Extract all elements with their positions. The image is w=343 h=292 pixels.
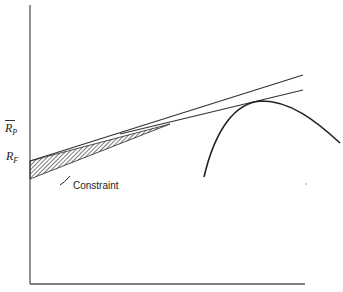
efficient-frontier-curve [204,101,340,177]
intercept-label-sub: F [13,156,18,165]
y-axis-label: RP [5,121,17,137]
intercept-label: RF [6,149,18,165]
y-axis-label-sub: P [12,128,17,137]
hatched-constraint-region [30,124,170,179]
constraint-label: Constraint [73,180,119,191]
upper-capital-market-line [30,75,303,161]
speck [305,183,307,185]
diagram-canvas [0,0,343,292]
lower-tangent-line [120,90,303,134]
constraint-pointer [60,176,70,185]
